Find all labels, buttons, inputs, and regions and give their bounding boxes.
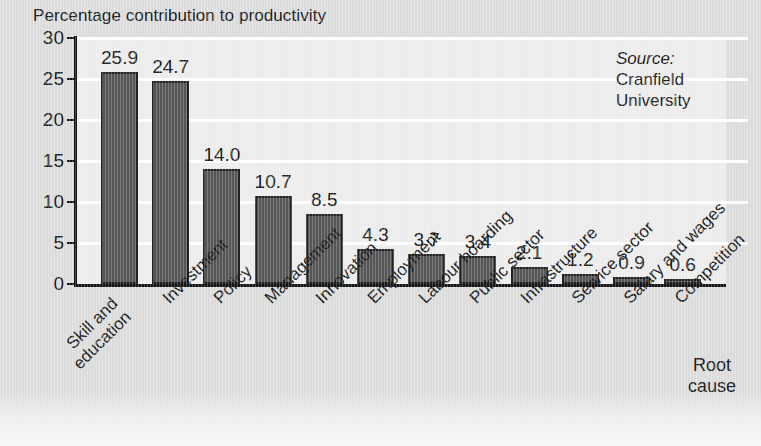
y-axis-tick <box>67 242 75 244</box>
bar-value-label: 24.7 <box>143 57 199 76</box>
gridline-stub <box>726 201 748 204</box>
x-axis-title-line: cause <box>672 376 752 397</box>
y-axis-tick-label: 20 <box>34 110 64 129</box>
y-axis-tick-label: 0 <box>34 274 64 293</box>
y-axis-tick <box>67 283 75 285</box>
y-axis-tick <box>67 78 75 80</box>
y-axis-tick <box>67 119 75 121</box>
source-line-1: Cranfield <box>616 69 691 90</box>
x-axis-title-line: Root <box>672 355 752 376</box>
bar-value-label: 1.2 <box>552 250 608 269</box>
gridline <box>77 37 726 40</box>
y-axis-tick-label: 30 <box>34 28 64 47</box>
bar[interactable] <box>152 81 189 284</box>
x-axis-title: Rootcause <box>672 355 752 397</box>
source-line-2: University <box>616 90 691 111</box>
bar-value-label: 14.0 <box>194 145 250 164</box>
gridline-stub <box>726 119 748 122</box>
chart-title: Percentage contribution to productivity <box>33 6 326 26</box>
gridline-stub <box>726 78 748 81</box>
y-axis-tick <box>67 201 75 203</box>
gridline-stub <box>726 160 748 163</box>
bar-value-label: 4.3 <box>348 225 404 244</box>
bar-value-label: 8.5 <box>296 190 352 209</box>
x-axis-line <box>74 284 726 287</box>
source-label: Source: <box>616 48 691 69</box>
gridline-stub <box>726 37 748 40</box>
y-axis-tick <box>67 160 75 162</box>
bar[interactable] <box>101 72 138 284</box>
bar-chart: Percentage contribution to productivity … <box>0 0 761 446</box>
bar-value-label: 10.7 <box>245 172 301 191</box>
bar-value-label: 3.4 <box>450 232 506 251</box>
y-axis-tick <box>67 37 75 39</box>
y-axis-tick-label: 25 <box>34 69 64 88</box>
y-axis-tick-label: 5 <box>34 233 64 252</box>
bar-value-label: 25.9 <box>92 48 148 67</box>
source-annotation: Source: Cranfield University <box>616 48 691 111</box>
bar-value-label: 2.1 <box>501 243 557 262</box>
y-axis-tick-label: 10 <box>34 192 64 211</box>
bar-value-label: 0.6 <box>655 255 711 274</box>
bar-value-label: 3.7 <box>399 230 455 249</box>
y-axis-tick-label: 15 <box>34 151 64 170</box>
bar-value-label: 0.9 <box>604 253 660 272</box>
